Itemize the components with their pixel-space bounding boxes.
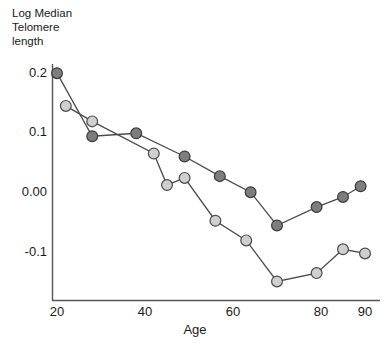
- plot-area: [0, 0, 390, 349]
- data-point: [87, 116, 98, 127]
- data-point: [60, 101, 71, 112]
- data-point: [272, 276, 283, 287]
- x-tick-label: 40: [138, 304, 152, 319]
- data-point: [311, 202, 322, 213]
- series-light-series: [66, 106, 365, 282]
- data-point: [311, 268, 322, 279]
- x-tick-label: 60: [226, 304, 240, 319]
- chart-figure: Log MedianTelomerelength 0.2 0.1 0.00 -0…: [0, 0, 390, 349]
- data-point: [131, 128, 142, 139]
- data-point: [241, 235, 252, 246]
- data-point: [338, 192, 349, 203]
- series-line: [66, 106, 365, 282]
- data-point: [179, 173, 190, 184]
- x-tick-label: 80: [314, 304, 328, 319]
- data-point: [162, 180, 173, 191]
- data-point: [52, 68, 63, 79]
- x-tick-label: 20: [50, 304, 64, 319]
- data-point: [272, 220, 283, 231]
- data-point: [214, 171, 225, 182]
- data-point: [245, 187, 256, 198]
- data-point: [210, 215, 221, 226]
- data-point: [338, 244, 349, 255]
- axis-lines: [52, 64, 380, 301]
- data-point: [355, 181, 366, 192]
- data-point: [360, 248, 371, 259]
- x-axis-title: Age: [0, 322, 390, 337]
- series-markers-dark-series: [52, 68, 366, 231]
- x-tick-label: 90: [358, 304, 372, 319]
- data-point: [148, 148, 159, 159]
- x-axis-tick-labels: 20 40 60 80 90: [0, 304, 390, 324]
- data-series-layer: [52, 68, 371, 287]
- data-point: [179, 151, 190, 162]
- data-point: [87, 131, 98, 142]
